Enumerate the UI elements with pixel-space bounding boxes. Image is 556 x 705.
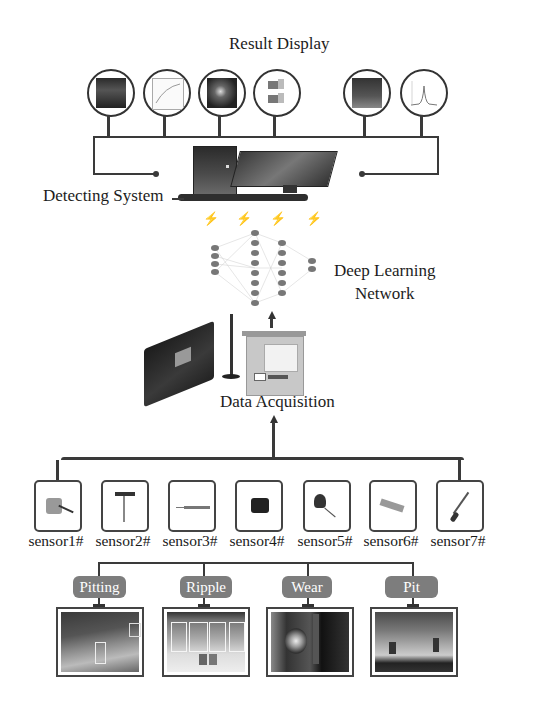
sensor-7 bbox=[436, 480, 484, 532]
camera-icon bbox=[251, 498, 269, 513]
sensor-1 bbox=[34, 480, 82, 532]
deep-learning-label-line2: Network bbox=[355, 284, 414, 304]
result-image-5 bbox=[343, 69, 391, 117]
defect-photo-wear bbox=[266, 607, 354, 677]
sensor-4 bbox=[235, 480, 283, 532]
result-image-6 bbox=[400, 69, 448, 117]
sensor-5 bbox=[303, 480, 351, 532]
result-image-2 bbox=[143, 69, 191, 117]
defect-tag-ripple: Ripple bbox=[180, 576, 232, 598]
result-image-3 bbox=[198, 69, 246, 117]
defect-tag-wear: Wear bbox=[282, 576, 332, 598]
defect-tag-pitting: Pitting bbox=[73, 576, 126, 598]
sensor-6 bbox=[369, 480, 417, 532]
result-image-4 bbox=[253, 69, 301, 117]
result-display-title: Result Display bbox=[229, 34, 330, 54]
deep-learning-label-line1: Deep Learning bbox=[334, 261, 435, 281]
sensor-2 bbox=[101, 480, 149, 532]
lightning-icon: ⚡ bbox=[236, 211, 252, 227]
sensor-7-label: sensor7# bbox=[418, 532, 498, 550]
rod-sensor-icon bbox=[184, 506, 210, 509]
defect-bus-line bbox=[98, 562, 413, 564]
defect-photo-ripple bbox=[162, 607, 250, 677]
probe-sensor-icon bbox=[115, 492, 135, 496]
detecting-system-label: Detecting System bbox=[43, 186, 163, 206]
data-acquisition-label: Data Acquisition bbox=[220, 392, 335, 412]
sensor-bus-line bbox=[61, 457, 464, 460]
defect-photo-pitting bbox=[56, 607, 144, 677]
lightning-icon: ⚡ bbox=[270, 211, 286, 227]
result-bus-line bbox=[93, 136, 439, 138]
acoustic-sensor-icon bbox=[314, 494, 326, 508]
lightning-icon: ⚡ bbox=[203, 211, 219, 227]
sensor-3 bbox=[168, 480, 216, 532]
lightning-icon: ⚡ bbox=[306, 211, 322, 227]
result-image-1 bbox=[87, 69, 135, 117]
load-cell-icon bbox=[380, 498, 405, 512]
defect-photo-pit bbox=[370, 607, 458, 677]
defect-tag-pit: Pit bbox=[385, 576, 438, 598]
